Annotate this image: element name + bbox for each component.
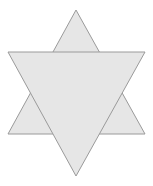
figure-canvas [0, 0, 153, 186]
star-of-david-figure [0, 0, 153, 186]
